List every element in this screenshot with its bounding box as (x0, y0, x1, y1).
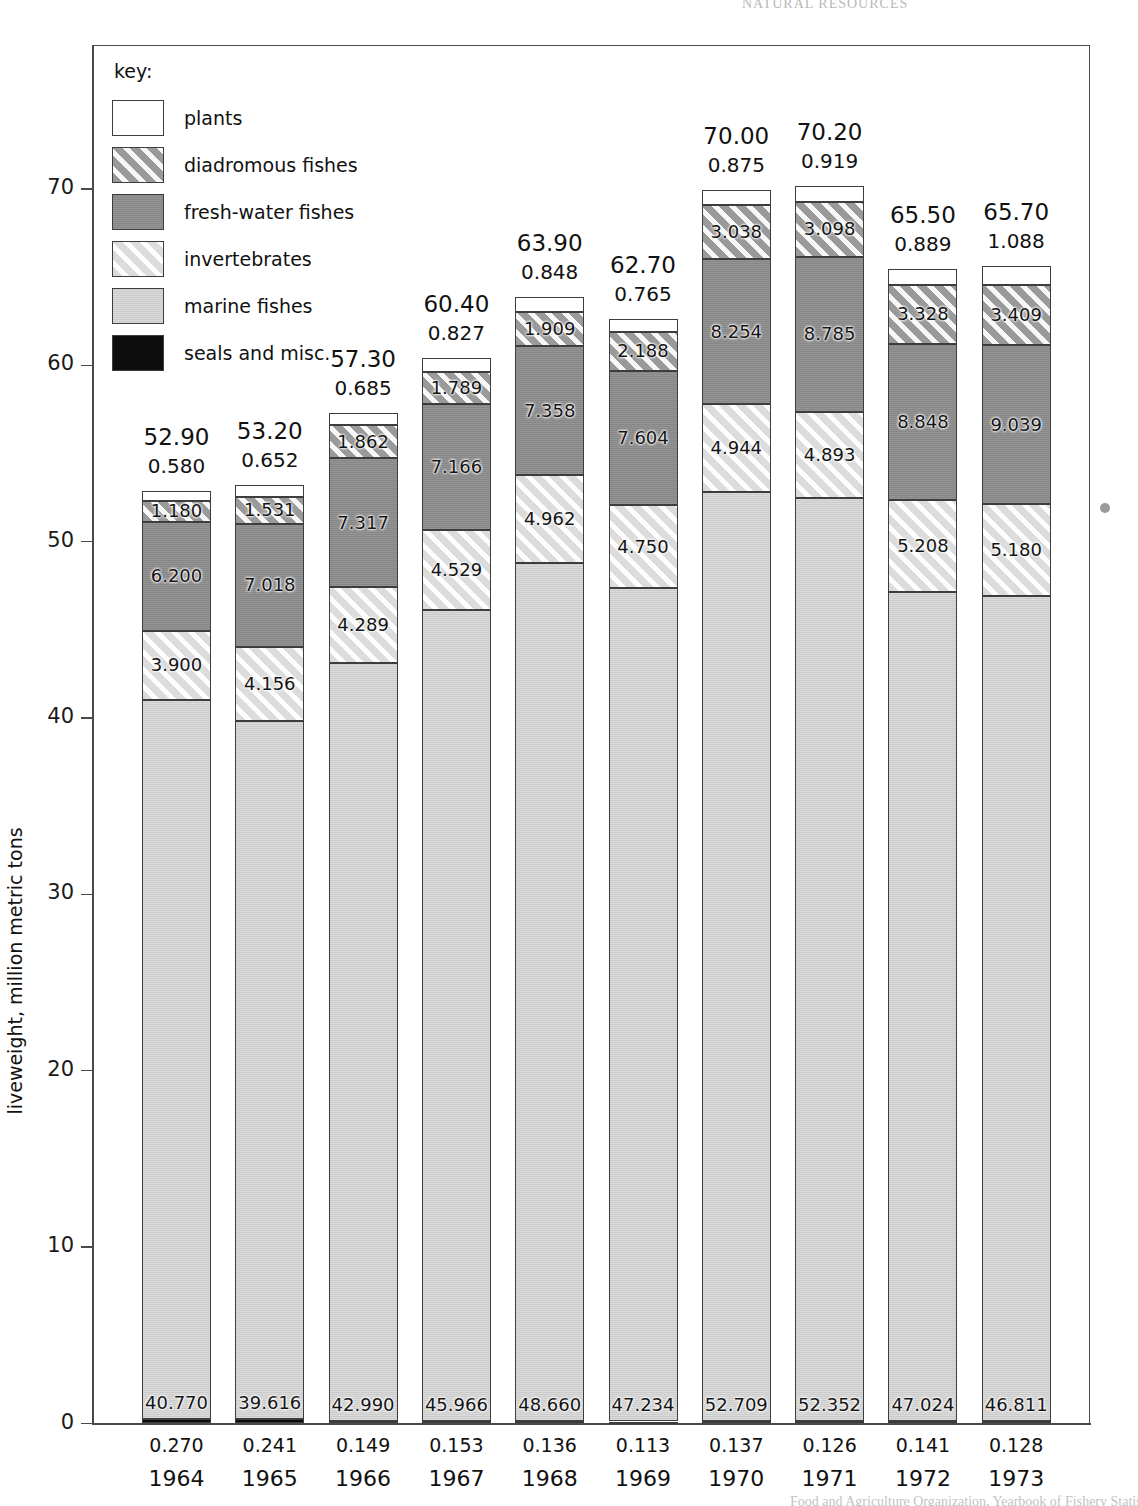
bar-segment-seals-and-misc-[interactable] (329, 1421, 398, 1424)
segment-value-label: 39.616 (236, 1394, 303, 1412)
bar-1965[interactable]: 39.6164.1567.0181.531 (235, 485, 304, 1423)
bar-segment-fresh-water-fishes[interactable]: 7.166 (422, 404, 491, 530)
bar-1966[interactable]: 42.9904.2897.3171.862 (329, 413, 398, 1423)
bar-total-label: 53.20 (200, 418, 340, 444)
segment-value-label: 42.990 (330, 1396, 397, 1414)
bar-segment-diadromous-fishes[interactable]: 2.188 (609, 332, 678, 371)
segment-value-label: 40.770 (143, 1394, 210, 1412)
plants-value-label: 1.088 (946, 229, 1086, 253)
y-tick-label-60: 60 (8, 351, 74, 375)
bar-segment-marine-fishes[interactable]: 52.709 (702, 492, 771, 1422)
bar-segment-seals-and-misc-[interactable] (982, 1421, 1051, 1423)
bar-segment-diadromous-fishes[interactable]: 1.862 (329, 425, 398, 458)
plants-value-label: 0.652 (200, 448, 340, 472)
bar-1969[interactable]: 47.2344.7507.6042.188 (609, 319, 678, 1424)
segment-value-label: 4.944 (711, 439, 763, 457)
bar-1972[interactable]: 47.0245.2088.8483.328 (888, 269, 957, 1423)
bar-segment-invertebrates[interactable]: 4.962 (515, 475, 584, 563)
bar-segment-seals-and-misc-[interactable] (795, 1421, 864, 1423)
bar-segment-fresh-water-fishes[interactable]: 8.785 (795, 257, 864, 412)
bar-segment-seals-and-misc-[interactable] (142, 1419, 211, 1424)
bar-segment-fresh-water-fishes[interactable]: 7.018 (235, 524, 304, 648)
bar-segment-fresh-water-fishes[interactable]: 8.848 (888, 344, 957, 500)
segment-value-label: 47.024 (889, 1396, 956, 1414)
segment-value-label: 4.893 (804, 446, 856, 464)
bar-segment-marine-fishes[interactable]: 47.234 (609, 588, 678, 1421)
bar-segment-marine-fishes[interactable]: 48.660 (515, 563, 584, 1421)
bar-segment-plants[interactable] (235, 485, 304, 496)
segment-value-label: 4.750 (617, 538, 669, 556)
segment-value-label: 46.811 (983, 1396, 1050, 1414)
bar-1973[interactable]: 46.8115.1809.0393.409 (982, 266, 1051, 1424)
bar-segment-plants[interactable] (329, 413, 398, 425)
bar-segment-diadromous-fishes[interactable]: 1.789 (422, 372, 491, 404)
bar-segment-plants[interactable] (795, 186, 864, 202)
segment-value-label: 3.409 (990, 306, 1042, 324)
bar-segment-seals-and-misc-[interactable] (609, 1422, 678, 1424)
bar-segment-marine-fishes[interactable]: 42.990 (329, 663, 398, 1421)
bar-segment-seals-and-misc-[interactable] (702, 1421, 771, 1423)
legend-item-fresh-water-fishes: fresh-water fishes (112, 188, 358, 235)
bar-segment-seals-and-misc-[interactable] (422, 1421, 491, 1424)
bar-segment-fresh-water-fishes[interactable]: 7.358 (515, 346, 584, 476)
bar-segment-plants[interactable] (702, 190, 771, 205)
bar-segment-marine-fishes[interactable]: 47.024 (888, 592, 957, 1421)
segment-value-label: 5.180 (990, 541, 1042, 559)
bar-segment-fresh-water-fishes[interactable]: 7.317 (329, 458, 398, 587)
y-tick-50 (81, 541, 93, 542)
bar-segment-diadromous-fishes[interactable]: 1.909 (515, 312, 584, 346)
bar-segment-invertebrates[interactable]: 4.893 (795, 412, 864, 498)
bar-segment-invertebrates[interactable]: 4.529 (422, 530, 491, 610)
plants-value-label: 0.919 (760, 149, 900, 173)
bar-segment-invertebrates[interactable]: 5.208 (888, 500, 957, 592)
segment-value-label: 7.166 (431, 458, 483, 476)
bar-1964[interactable]: 40.7703.9006.2001.180 (142, 491, 211, 1424)
bar-segment-plants[interactable] (142, 491, 211, 501)
bar-segment-marine-fishes[interactable]: 40.770 (142, 700, 211, 1419)
bar-segment-fresh-water-fishes[interactable]: 8.254 (702, 259, 771, 405)
segment-value-label: 8.785 (804, 325, 856, 343)
bar-segment-diadromous-fishes[interactable]: 1.180 (142, 501, 211, 522)
bar-segment-plants[interactable] (888, 269, 957, 285)
segment-value-label: 52.709 (703, 1396, 770, 1414)
bar-segment-plants[interactable] (609, 319, 678, 332)
bar-segment-marine-fishes[interactable]: 45.966 (422, 610, 491, 1421)
segment-value-label: 1.909 (524, 320, 576, 338)
bar-segment-diadromous-fishes[interactable]: 1.531 (235, 497, 304, 524)
bar-segment-plants[interactable] (422, 358, 491, 373)
bar-segment-invertebrates[interactable]: 4.750 (609, 505, 678, 589)
legend-label: fresh-water fishes (184, 201, 354, 223)
bar-segment-seals-and-misc-[interactable] (888, 1421, 957, 1423)
segment-value-label: 7.317 (337, 514, 389, 532)
bar-segment-invertebrates[interactable]: 3.900 (142, 631, 211, 700)
bar-segment-diadromous-fishes[interactable]: 3.409 (982, 285, 1051, 345)
segment-value-label: 4.289 (337, 616, 389, 634)
bar-segment-fresh-water-fishes[interactable]: 7.604 (609, 371, 678, 505)
segment-value-label: 2.188 (617, 342, 669, 360)
bar-1971[interactable]: 52.3524.8938.7853.098 (795, 186, 864, 1424)
bar-segment-marine-fishes[interactable]: 39.616 (235, 721, 304, 1420)
bar-segment-marine-fishes[interactable]: 52.352 (795, 498, 864, 1421)
bar-segment-fresh-water-fishes[interactable]: 6.200 (142, 522, 211, 631)
legend-item-invertebrates: invertebrates (112, 235, 358, 282)
bar-segment-invertebrates[interactable]: 4.944 (702, 404, 771, 491)
bar-segment-seals-and-misc-[interactable] (235, 1419, 304, 1423)
bar-segment-plants[interactable] (982, 266, 1051, 285)
seals-value-label: 0.128 (946, 1434, 1086, 1456)
bar-segment-invertebrates[interactable]: 4.289 (329, 587, 398, 663)
bar-segment-marine-fishes[interactable]: 46.811 (982, 596, 1051, 1422)
bar-segment-invertebrates[interactable]: 4.156 (235, 647, 304, 720)
source-caption: Food and Agriculture Organization, Yearb… (790, 1494, 1138, 1506)
bar-segment-diadromous-fishes[interactable]: 3.038 (702, 205, 771, 259)
bar-segment-seals-and-misc-[interactable] (515, 1421, 584, 1423)
segment-value-label: 6.200 (151, 567, 203, 585)
segment-value-label: 7.018 (244, 576, 296, 594)
bar-segment-fresh-water-fishes[interactable]: 9.039 (982, 345, 1051, 504)
bar-segment-diadromous-fishes[interactable]: 3.328 (888, 285, 957, 344)
bar-1970[interactable]: 52.7094.9448.2543.038 (702, 190, 771, 1424)
bar-1967[interactable]: 45.9664.5297.1661.789 (422, 358, 491, 1424)
legend-swatch-icon-5 (112, 335, 164, 371)
bar-1968[interactable]: 48.6604.9627.3581.909 (515, 297, 584, 1423)
bar-segment-invertebrates[interactable]: 5.180 (982, 504, 1051, 595)
